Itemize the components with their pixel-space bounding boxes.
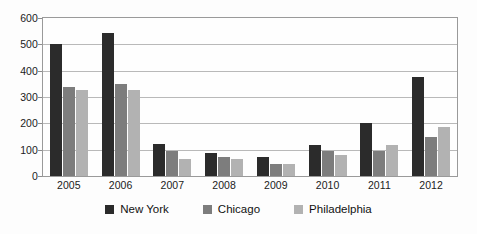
bar-philadelphia-2010: [335, 155, 347, 176]
chart-legend: New YorkChicagoPhiladelphia: [0, 203, 477, 215]
bar-chicago-2010: [322, 151, 334, 176]
x-tick-label-2007: 2007: [147, 179, 199, 191]
bar-philadelphia-2009: [283, 164, 295, 176]
y-tick-label-500: 500: [20, 38, 38, 50]
legend-label: Chicago: [218, 203, 260, 215]
legend-item-chicago[interactable]: Chicago: [203, 203, 260, 215]
bar-new-york-2008: [205, 153, 217, 176]
x-tick-label-2011: 2011: [354, 179, 406, 191]
legend-label: New York: [120, 203, 169, 215]
bar-chicago-2009: [270, 164, 282, 176]
legend-item-philadelphia[interactable]: Philadelphia: [294, 203, 372, 215]
bar-new-york-2010: [309, 145, 321, 176]
bar-group-2006: [95, 18, 147, 176]
bar-group-2010: [302, 18, 354, 176]
y-axis: 0100200300400500600: [0, 17, 38, 177]
x-tick-label-2006: 2006: [95, 179, 147, 191]
bar-chicago-2006: [115, 84, 127, 176]
x-tick-label-2009: 2009: [250, 179, 302, 191]
bar-chicago-2005: [63, 87, 75, 176]
x-tick-label-2005: 2005: [43, 179, 95, 191]
legend-label: Philadelphia: [309, 203, 372, 215]
x-tick-label-2010: 2010: [302, 179, 354, 191]
y-tick-label-200: 200: [20, 117, 38, 129]
bar-new-york-2005: [50, 44, 62, 176]
y-tick-label-100: 100: [20, 144, 38, 156]
bar-chart-figure: 0100200300400500600 20052006200720082009…: [0, 0, 477, 234]
bar-chicago-2008: [218, 157, 230, 176]
bar-group-2005: [43, 18, 95, 176]
x-axis: 20052006200720082009201020112012: [43, 179, 457, 191]
legend-swatch-icon: [294, 205, 303, 214]
bar-chicago-2007: [166, 151, 178, 176]
bar-new-york-2009: [257, 157, 269, 176]
x-tick-label-2008: 2008: [198, 179, 250, 191]
bar-philadelphia-2008: [231, 159, 243, 176]
bar-group-2007: [147, 18, 199, 176]
legend-item-new-york[interactable]: New York: [105, 203, 169, 215]
bar-philadelphia-2012: [438, 127, 450, 177]
bar-philadelphia-2007: [179, 159, 191, 176]
bar-philadelphia-2006: [128, 90, 140, 176]
bar-new-york-2007: [153, 144, 165, 176]
legend-swatch-icon: [203, 205, 212, 214]
bar-group-2012: [405, 18, 457, 176]
y-tick-label-400: 400: [20, 65, 38, 77]
bar-philadelphia-2011: [386, 145, 398, 176]
plot-area-bars: [43, 18, 457, 176]
legend-swatch-icon: [105, 205, 114, 214]
bar-group-2009: [250, 18, 302, 176]
y-tick-label-300: 300: [20, 91, 38, 103]
bar-chicago-2012: [425, 137, 437, 177]
bar-philadelphia-2005: [76, 90, 88, 176]
bar-group-2011: [354, 18, 406, 176]
bar-chicago-2011: [373, 151, 385, 176]
bar-new-york-2006: [102, 33, 114, 176]
bar-new-york-2012: [412, 77, 424, 176]
x-tick-label-2012: 2012: [405, 179, 457, 191]
bar-group-2008: [198, 18, 250, 176]
bar-new-york-2011: [360, 123, 372, 176]
y-tick-label-600: 600: [20, 12, 38, 24]
